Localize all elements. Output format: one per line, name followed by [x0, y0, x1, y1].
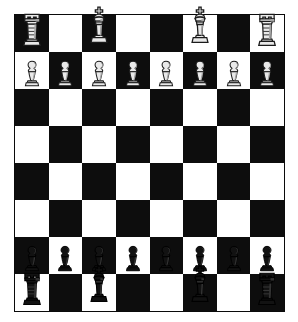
square-a8[interactable] [15, 15, 49, 52]
black-pawn-h2-icon[interactable] [258, 244, 277, 274]
square-g5[interactable] [217, 126, 251, 163]
square-a7[interactable] [15, 52, 49, 89]
square-d6[interactable] [116, 89, 150, 126]
square-g8[interactable] [217, 15, 251, 52]
square-d8[interactable] [116, 15, 150, 52]
square-h6[interactable] [250, 89, 284, 126]
white-king-f8-icon[interactable] [188, 6, 212, 52]
black-pawn-g2-icon[interactable] [224, 244, 243, 274]
square-g2[interactable] [217, 237, 251, 274]
square-d7[interactable] [116, 52, 150, 89]
square-c8[interactable] [82, 15, 116, 52]
square-c3[interactable] [82, 200, 116, 237]
chess-diagram-page [0, 0, 298, 322]
square-f5[interactable] [183, 126, 217, 163]
square-d1[interactable] [116, 274, 150, 311]
square-g4[interactable] [217, 163, 251, 200]
square-c7[interactable] [82, 52, 116, 89]
square-h5[interactable] [250, 126, 284, 163]
white-king-c8-icon[interactable] [87, 6, 111, 52]
chessboard[interactable] [14, 14, 285, 312]
square-f6[interactable] [183, 89, 217, 126]
square-b6[interactable] [49, 89, 83, 126]
square-h7[interactable] [250, 52, 284, 89]
black-pawn-f2-icon[interactable] [190, 244, 209, 274]
white-pawn-b7-icon[interactable] [56, 59, 75, 89]
white-pawn-e7-icon[interactable] [157, 59, 176, 89]
square-g1[interactable] [217, 274, 251, 311]
square-e8[interactable] [150, 15, 184, 52]
square-e5[interactable] [150, 126, 184, 163]
square-e7[interactable] [150, 52, 184, 89]
white-pawn-f7-icon[interactable] [190, 59, 209, 89]
square-b4[interactable] [49, 163, 83, 200]
square-g6[interactable] [217, 89, 251, 126]
square-d5[interactable] [116, 126, 150, 163]
square-a3[interactable] [15, 200, 49, 237]
square-b3[interactable] [49, 200, 83, 237]
square-b7[interactable] [49, 52, 83, 89]
square-b1[interactable] [49, 274, 83, 311]
square-e6[interactable] [150, 89, 184, 126]
square-c4[interactable] [82, 163, 116, 200]
white-pawn-g7-icon[interactable] [224, 59, 243, 89]
black-pawn-e2-icon[interactable] [157, 244, 176, 274]
square-c6[interactable] [82, 89, 116, 126]
black-pawn-d2-icon[interactable] [123, 244, 142, 274]
square-f1[interactable] [183, 274, 217, 311]
square-c5[interactable] [82, 126, 116, 163]
white-pawn-c7-icon[interactable] [90, 59, 109, 89]
square-c2[interactable] [82, 237, 116, 274]
white-pawn-d7-icon[interactable] [123, 59, 142, 89]
black-pawn-b2-icon[interactable] [56, 244, 75, 274]
white-rook-a8-icon[interactable] [20, 12, 44, 52]
square-g3[interactable] [217, 200, 251, 237]
square-a6[interactable] [15, 89, 49, 126]
square-d2[interactable] [116, 237, 150, 274]
chessboard-wrapper [14, 14, 285, 312]
square-h2[interactable] [250, 237, 284, 274]
square-b2[interactable] [49, 237, 83, 274]
square-e2[interactable] [150, 237, 184, 274]
square-h1[interactable] [250, 274, 284, 311]
square-f8[interactable] [183, 15, 217, 52]
square-b8[interactable] [49, 15, 83, 52]
square-a1[interactable] [15, 274, 49, 311]
black-rook-h1-icon[interactable] [255, 271, 279, 311]
black-pawn-c2-icon[interactable] [90, 244, 109, 274]
square-f2[interactable] [183, 237, 217, 274]
white-pawn-h7-icon[interactable] [258, 59, 277, 89]
square-d4[interactable] [116, 163, 150, 200]
black-rook-a1-icon[interactable] [20, 271, 44, 311]
square-d3[interactable] [116, 200, 150, 237]
square-f3[interactable] [183, 200, 217, 237]
square-a2[interactable] [15, 237, 49, 274]
square-h4[interactable] [250, 163, 284, 200]
white-rook-h8-icon[interactable] [255, 12, 279, 52]
square-e1[interactable] [150, 274, 184, 311]
square-g7[interactable] [217, 52, 251, 89]
black-pawn-a2-icon[interactable] [22, 244, 41, 274]
square-c1[interactable] [82, 274, 116, 311]
white-pawn-a7-icon[interactable] [22, 59, 41, 89]
square-h8[interactable] [250, 15, 284, 52]
square-a4[interactable] [15, 163, 49, 200]
square-e3[interactable] [150, 200, 184, 237]
square-a5[interactable] [15, 126, 49, 163]
square-b5[interactable] [49, 126, 83, 163]
square-f4[interactable] [183, 163, 217, 200]
square-h3[interactable] [250, 200, 284, 237]
square-f7[interactable] [183, 52, 217, 89]
square-e4[interactable] [150, 163, 184, 200]
